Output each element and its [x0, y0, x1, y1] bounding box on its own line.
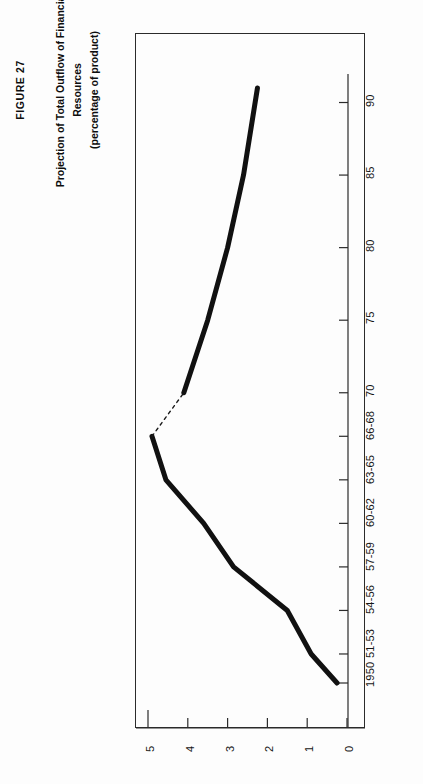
year-tick-label: 54-56 — [364, 585, 376, 614]
year-tick-label: 70 — [364, 384, 376, 397]
percentage-tick-label: 3 — [224, 746, 236, 752]
figure-number: FIGURE 27 — [14, 0, 26, 300]
year-tick-label: 60-62 — [364, 498, 376, 527]
year-tick-label: 66-68 — [364, 411, 376, 440]
year-tick-label: 80 — [364, 239, 376, 252]
year-tick-label: 85 — [364, 166, 376, 179]
percentage-tick-label: 2 — [263, 746, 275, 752]
percentage-tick-label: 1 — [303, 746, 315, 752]
percentage-tick-label: 5 — [144, 746, 156, 752]
percentage-tick-label: 0 — [343, 746, 355, 752]
year-tick-label: 75 — [364, 312, 376, 325]
year-tick-label: 57-59 — [364, 542, 376, 571]
figure-title-block: FIGURE 27 Projection of Total Outflow of… — [14, 0, 124, 300]
year-tick-label: 90 — [364, 94, 376, 107]
year-tick-label: 1950 — [364, 662, 376, 687]
plot-frame — [135, 33, 365, 728]
percentage-tick-label: 4 — [184, 746, 196, 752]
year-tick-label: 51-53 — [364, 629, 376, 658]
figure-title-line-1: Projection of Total Outflow of Financial — [52, 0, 69, 300]
figure-title-line-3: (percentage of product) — [86, 0, 103, 300]
figure-title-line-2: Resources — [69, 0, 86, 300]
figure-page: FIGURE 27 Projection of Total Outflow of… — [0, 0, 423, 784]
year-tick-label: 63-65 — [364, 455, 376, 484]
